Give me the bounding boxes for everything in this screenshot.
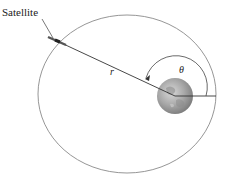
satellite-leader-line xyxy=(42,19,53,38)
orbit-figure xyxy=(0,0,228,181)
satellite-icon xyxy=(48,37,66,45)
theta-label: θ xyxy=(179,64,184,75)
orbit-diagram: Satellite r θ xyxy=(0,0,228,181)
theta-arrowhead-icon xyxy=(145,75,150,81)
radius-label: r xyxy=(110,66,114,77)
satellite-label: Satellite xyxy=(2,6,38,18)
radius-line xyxy=(57,41,175,96)
